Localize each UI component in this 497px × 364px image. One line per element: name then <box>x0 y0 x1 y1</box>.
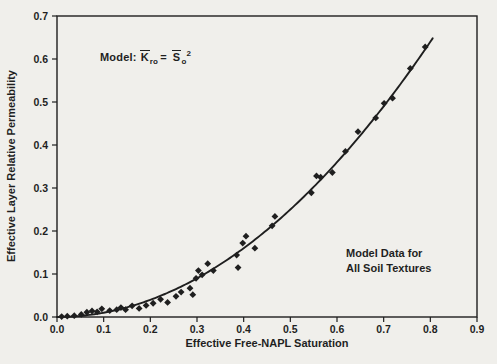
data-point-marker <box>178 289 185 296</box>
model-equation-prefix: Model: <box>100 51 137 63</box>
data-point-marker <box>71 312 78 319</box>
data-point-marker <box>136 305 143 312</box>
data-point-marker <box>58 313 65 320</box>
x-tick-label: 0.3 <box>190 323 205 335</box>
x-tick-label: 0.5 <box>283 323 298 335</box>
x-tick-label: 0.9 <box>470 323 485 335</box>
x-tick-label: 0.0 <box>50 323 65 335</box>
model-equation-k-subscript: ro <box>150 57 158 66</box>
data-point-marker <box>187 285 194 292</box>
data-point-marker <box>150 300 157 307</box>
x-axis-title: Effective Free-NAPL Saturation <box>57 336 477 350</box>
model-equation-equals: = <box>160 51 167 63</box>
data-point-marker <box>239 240 246 247</box>
data-point-marker <box>173 293 180 300</box>
data-point-marker <box>272 213 279 220</box>
data-point-marker <box>235 264 242 271</box>
data-point-marker <box>389 95 396 102</box>
y-axis-title: Effective Layer Relative Permeability <box>4 70 18 262</box>
data-point-marker <box>381 100 388 107</box>
x-tick-label: 0.8 <box>423 323 438 335</box>
y-tick-label: 0.4 <box>33 139 48 151</box>
data-point-marker <box>64 313 71 320</box>
x-tick-label: 0.4 <box>236 323 251 335</box>
model-equation: Model:Kro=So2 <box>100 47 191 69</box>
x-tick-label: 0.1 <box>96 323 111 335</box>
data-point-marker <box>204 260 211 267</box>
y-tick-label: 0.2 <box>33 225 48 237</box>
y-tick-label: 0.3 <box>33 182 48 194</box>
y-tick-label: 0.5 <box>33 96 48 108</box>
data-point-marker <box>129 302 136 309</box>
y-tick-label: 0.1 <box>33 268 48 280</box>
data-point-marker <box>251 245 258 252</box>
y-tick-label: 0.7 <box>33 10 48 22</box>
x-tick-label: 0.7 <box>376 323 391 335</box>
scatter-figure: 0.00.10.20.30.40.50.60.70.80.90.00.10.20… <box>0 0 497 364</box>
plot-svg: 0.00.10.20.30.40.50.60.70.80.90.00.10.20… <box>0 0 497 364</box>
model-equation-exponent: 2 <box>186 49 191 58</box>
x-tick-label: 0.2 <box>143 323 158 335</box>
data-point-marker <box>189 291 196 298</box>
model-equation-s: S <box>172 50 182 63</box>
model-equation-s-subscript: o <box>181 57 186 66</box>
y-tick-label: 0.6 <box>33 53 48 65</box>
data-note-line-2: All Soil Textures <box>346 261 431 276</box>
data-point-marker <box>243 233 250 240</box>
data-note: Model Data for All Soil Textures <box>346 246 431 276</box>
data-note-line-1: Model Data for <box>346 246 431 261</box>
model-equation-k: K <box>140 50 150 63</box>
data-point-marker <box>164 299 171 306</box>
y-tick-label: 0.0 <box>33 311 48 323</box>
x-tick-label: 0.6 <box>330 323 345 335</box>
